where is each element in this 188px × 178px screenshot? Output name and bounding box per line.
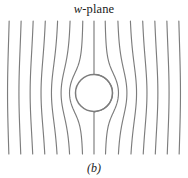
streamline (130, 21, 136, 154)
streamline (155, 21, 158, 154)
obstacle-circle (76, 75, 113, 112)
streamline (179, 21, 181, 154)
streamline (94, 21, 113, 154)
streamline (8, 21, 10, 154)
flow-field-plot (0, 0, 188, 178)
streamline (143, 21, 147, 154)
streamline (51, 21, 57, 154)
figure-container: w-plane (b) (0, 0, 188, 178)
streamline (19, 21, 21, 154)
figure-caption: (b) (0, 161, 188, 175)
streamline (30, 21, 33, 154)
streamline (41, 21, 45, 154)
streamline (167, 21, 169, 154)
streamlines-group (8, 21, 181, 154)
streamline (61, 21, 70, 154)
streamline (118, 21, 127, 154)
